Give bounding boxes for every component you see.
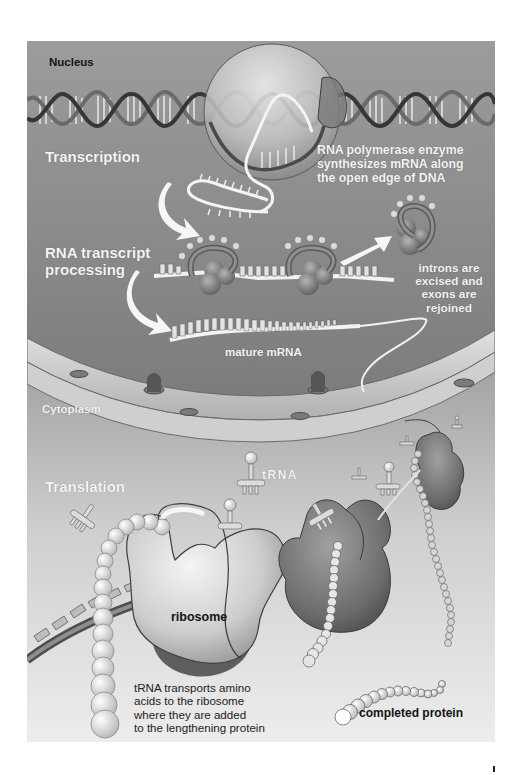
ribosome-label: ribosome [171,610,227,624]
introns-annotation: introns are excised and exons are rejoin… [404,262,494,315]
translation-label: Translation [45,479,125,496]
rna-polymerase-annotation: RNA polymerase enzyme synthesizes mRNA a… [317,144,463,185]
trna-transport-annotation: tRNA transports amino acids to the ribos… [134,681,265,735]
completed-protein-label: completed protein [359,707,463,720]
diagram-artwork [0,0,518,775]
protein-synthesis-diagram: Nucleus Transcription RNA polymerase enz… [0,0,518,775]
page-mark [493,766,495,772]
nucleus-label: Nucleus [49,56,94,69]
trna-label: tRNA [262,469,298,482]
transcription-label: Transcription [45,149,140,166]
mature-mrna-label: mature mRNA [225,346,302,359]
rna-processing-label: RNA transcript processing [45,245,150,279]
cytoplasm-label: Cytoplasm [42,403,101,416]
